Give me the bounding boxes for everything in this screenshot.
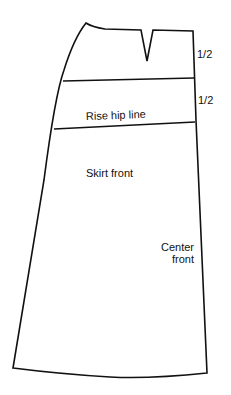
center-front-label-line1: Center xyxy=(161,241,194,253)
rise-hip-line xyxy=(54,122,195,129)
skirt-front-label: Skirt front xyxy=(86,167,133,179)
pattern-outline xyxy=(13,23,207,378)
center-front-label-line2: front xyxy=(172,253,194,265)
skirt-front-pattern-diagram: 1/2 1/2 Rise hip line Skirt front Center… xyxy=(0,0,231,395)
measure-label-second: 1/2 xyxy=(198,94,213,106)
hip-line xyxy=(63,78,194,81)
measure-label-top: 1/2 xyxy=(197,48,212,60)
rise-hip-line-label: Rise hip line xyxy=(86,108,146,122)
